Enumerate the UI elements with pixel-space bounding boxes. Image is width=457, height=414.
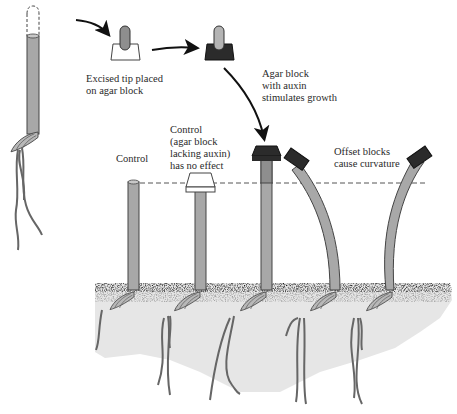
arrow-to-auxin-block (152, 47, 196, 50)
decapitated-coleoptile (11, 6, 42, 250)
auxin-agar-block (205, 26, 234, 60)
auxin-diagram (0, 0, 457, 414)
arrow-to-agar (76, 20, 108, 34)
tip-on-plain-agar (111, 26, 140, 60)
seedling-auxin-offset-right (351, 146, 432, 404)
label-offset-blocks: Offset blocks cause curvature (334, 146, 400, 170)
soil (95, 283, 452, 392)
label-agar-auxin: Agar block with auxin stimulates growth (262, 68, 337, 104)
label-control: Control (116, 153, 148, 165)
label-control-agar: Control (agar block lacking auxin) has n… (170, 124, 230, 172)
label-excised-tip: Excised tip placed on agar block (86, 73, 163, 97)
